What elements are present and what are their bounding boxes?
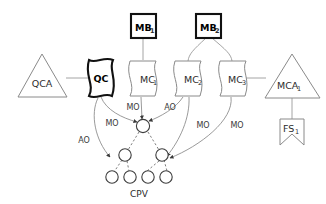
mc2-subscript: 2 (198, 79, 202, 87)
mb2-subscript: 2 (215, 27, 220, 35)
tree-node-leaf-2 (124, 171, 136, 183)
tree-edge-root-mid2 (148, 132, 159, 150)
arrow-mc1-to-root (141, 97, 142, 119)
tree-edge-mid1-leaf1 (114, 160, 122, 172)
mca1-triangle-shape (265, 54, 320, 98)
tree-edge-mid2-leaf3 (147, 161, 159, 171)
qc-label: QC (93, 73, 108, 84)
edge-label-group: AO MO MO AO MO MO (78, 103, 243, 145)
mb-connectors (143, 38, 232, 61)
edge-label-ao-mc2: AO (164, 103, 176, 112)
mb1-subscript: 1 (150, 27, 155, 35)
cpv-caption: CPV (130, 189, 149, 199)
node-fs1[interactable]: FS 1 (280, 119, 304, 145)
edge-label-mo-mc2: MO (196, 121, 209, 130)
connector-mb2-mc3 (212, 38, 232, 61)
node-mb2[interactable]: MB 2 (196, 14, 221, 38)
edge-label-mo-qc: MO (105, 119, 118, 128)
mc2-label: MC (184, 74, 199, 85)
mc1-subscript: 1 (153, 79, 157, 87)
fs1-subscript: 1 (295, 128, 299, 136)
tree-edge-mid1-leaf2 (127, 161, 129, 171)
tree-node-root (136, 119, 149, 132)
node-mb1[interactable]: MB 1 (131, 14, 156, 38)
tree-node-leaf-1 (106, 171, 118, 183)
tree-node-leaf-3 (142, 171, 154, 183)
connector-mb2-mc2 (188, 38, 206, 61)
fs1-label: FS (283, 123, 294, 134)
tree-node-mid-2 (156, 149, 168, 161)
node-mca1[interactable]: MCA 1 (265, 54, 320, 98)
tree-node-leaf-4 (160, 171, 172, 183)
diagram-svg: QCA QC MC 1 MC 2 MC 3 MCA 1 (0, 0, 326, 204)
node-mc2[interactable]: MC 2 (174, 61, 202, 96)
tree-edge-mid2-leaf4 (164, 160, 167, 171)
diagram-canvas: QCA QC MC 1 MC 2 MC 3 MCA 1 (0, 0, 326, 204)
node-mc3[interactable]: MC 3 (219, 61, 247, 96)
edge-label-mo-mc3: MO (230, 121, 243, 130)
mc3-label: MC (228, 74, 243, 85)
qca-triangle-shape (18, 54, 67, 97)
node-mc1[interactable]: MC 1 (129, 61, 157, 96)
mca1-label: MCA (277, 80, 299, 91)
tree-edge-root-mid1 (128, 132, 139, 150)
node-qc[interactable]: QC (88, 59, 114, 97)
mc3-subscript: 3 (242, 79, 246, 87)
tree-node-mid-1 (119, 149, 131, 161)
mca1-subscript: 1 (297, 85, 301, 93)
edge-label-mo-mc1: MO (126, 103, 139, 112)
qca-label: QCA (32, 78, 53, 89)
cpv-tree: CPV (106, 119, 172, 199)
node-qca[interactable]: QCA (18, 54, 67, 97)
edge-label-ao-qc: AO (78, 136, 90, 145)
